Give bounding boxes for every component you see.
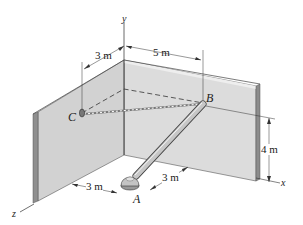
dim-b-offset-x-label: 5 m xyxy=(153,47,170,58)
point-a-label: A xyxy=(133,193,140,205)
dim-c-offset-label: 3 m xyxy=(95,50,112,61)
dim-b-height-label: 4 m xyxy=(261,144,278,155)
point-b-label: B xyxy=(206,92,213,104)
c-anchor xyxy=(79,109,84,117)
statics-diagram xyxy=(0,0,303,225)
y-axis-label: y xyxy=(122,14,126,24)
z-axis xyxy=(20,204,34,212)
a-support xyxy=(121,177,139,190)
x-axis-label: x xyxy=(281,178,285,188)
point-c-label: C xyxy=(68,111,76,123)
dim-a-offset-x-label: 3 m xyxy=(162,172,179,183)
z-axis-label: z xyxy=(12,209,16,219)
side-wall xyxy=(33,60,124,203)
dim-a-offset-z-label: 3 m xyxy=(86,181,103,192)
